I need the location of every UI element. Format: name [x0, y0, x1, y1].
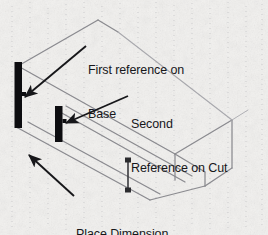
first-reference-bar — [15, 62, 23, 128]
annotation-first-reference-line1: First reference on — [88, 63, 184, 78]
annotation-second-reference: Second Reference on Cut — [131, 88, 227, 204]
annotation-place-dimension: Place Dimension — [76, 198, 168, 235]
technical-illustration-figure: First reference on Base Second Reference… — [0, 0, 268, 235]
second-reference-bar — [55, 106, 63, 142]
annotation-second-reference-line2: Reference on Cut — [131, 161, 227, 176]
annotation-second-reference-line1: Second — [131, 117, 227, 132]
annotation-place-dimension-line1: Place Dimension — [76, 227, 168, 235]
first-reference-tick — [22, 92, 26, 96]
